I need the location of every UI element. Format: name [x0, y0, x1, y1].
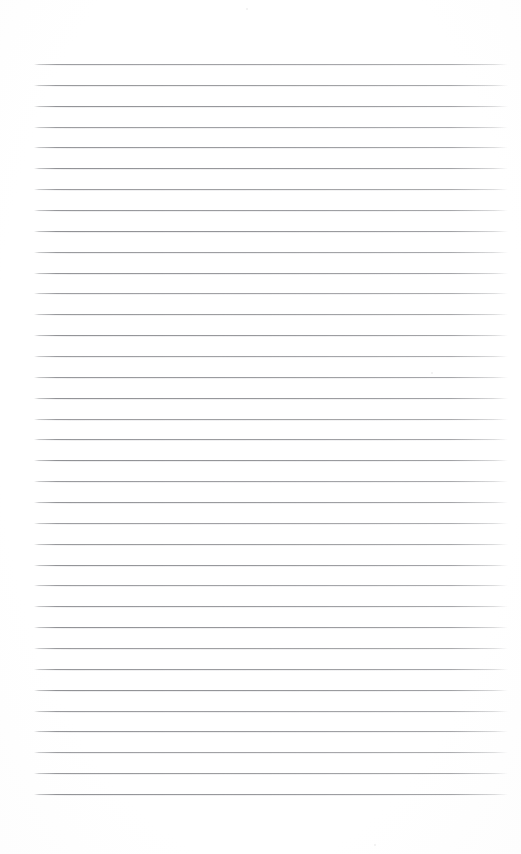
- rule-line: [34, 794, 508, 795]
- rule-line: [34, 731, 508, 732]
- scan-speck: [246, 8, 248, 10]
- rule-line: [34, 293, 508, 294]
- rule-line: [34, 314, 508, 315]
- rule-line: [34, 773, 508, 774]
- notebook-page: [0, 0, 521, 854]
- rule-line: [34, 419, 508, 420]
- rule-line: [34, 335, 508, 336]
- rule-line: [34, 481, 508, 482]
- rule-line: [34, 648, 508, 649]
- rule-line: [34, 502, 508, 503]
- rule-line: [34, 85, 508, 86]
- rule-line: [34, 398, 508, 399]
- rule-line: [34, 439, 508, 440]
- rule-line: [34, 168, 508, 169]
- rule-line: [34, 606, 508, 607]
- rule-line: [34, 460, 508, 461]
- rule-line: [34, 565, 508, 566]
- rule-line: [34, 585, 508, 586]
- rule-line: [34, 752, 508, 753]
- rule-line: [34, 356, 508, 357]
- scan-speck: [374, 844, 376, 846]
- rule-line: [34, 231, 508, 232]
- rule-line: [34, 127, 508, 128]
- rule-line: [34, 711, 508, 712]
- rule-line: [34, 210, 508, 211]
- rule-line: [34, 64, 508, 65]
- rule-line: [34, 189, 508, 190]
- rule-line: [34, 252, 508, 253]
- rule-line: [34, 669, 508, 670]
- ruled-lines-area: [0, 0, 521, 854]
- rule-line: [34, 147, 508, 148]
- rule-line: [34, 273, 508, 274]
- scan-speck: [431, 372, 433, 374]
- rule-line: [34, 106, 508, 107]
- rule-line: [34, 690, 508, 691]
- rule-line: [34, 544, 508, 545]
- rule-line: [34, 523, 508, 524]
- rule-line: [34, 627, 508, 628]
- rule-line: [34, 377, 508, 378]
